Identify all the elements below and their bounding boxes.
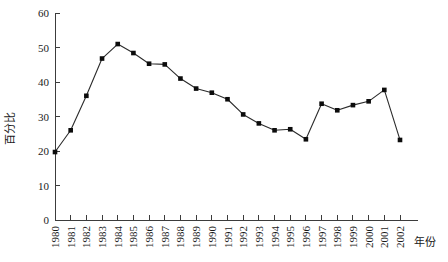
x-tick-label: 1989 [190,226,202,249]
x-axis-title: 年份 [414,235,436,248]
line-chart: 0102030405060 19801981198219831984198519… [0,0,448,262]
data-point [162,62,167,67]
data-point [194,86,199,91]
y-tick-label: 50 [38,42,50,54]
data-point [288,127,293,132]
x-tick-label: 1998 [331,226,343,249]
x-axis: 1980198119821983198419851986198719881989… [49,215,418,248]
x-tick-label: 1980 [49,226,61,249]
x-tick-label: 2000 [363,226,375,249]
data-point [210,90,215,95]
data-point [366,99,371,104]
x-tick-label: 1988 [174,226,186,249]
x-tick-label: 1995 [284,226,296,249]
x-tick-label: 1987 [159,226,171,249]
y-axis-title: 百分比 [4,112,16,145]
x-tick-label: 1996 [300,226,312,249]
y-tick-label: 0 [44,214,50,226]
data-point [178,76,183,81]
x-tick-label: 1983 [96,226,108,249]
x-tick-label: 1982 [80,226,92,248]
x-tick-label: 2002 [394,226,406,248]
data-point [272,128,277,133]
data-point [382,88,387,93]
y-tick-label: 30 [38,111,50,123]
data-point [319,101,324,106]
data-point [241,112,246,117]
x-tick-label: 1992 [237,226,249,248]
x-tick-label: 1981 [65,226,77,248]
y-axis: 0102030405060 [38,7,60,226]
data-point [100,56,105,61]
x-tick-label: 1991 [222,226,234,248]
data-point [257,121,262,126]
x-tick-label: 1999 [347,226,359,249]
x-tick-label: 1997 [316,226,328,249]
x-tick-label: 2001 [378,226,390,248]
chart-canvas: 0102030405060 19801981198219831984198519… [0,0,448,262]
data-point [335,108,340,113]
y-tick-label: 60 [38,7,50,19]
x-tick-label: 1993 [253,226,265,249]
y-tick-label: 40 [38,76,50,88]
data-point [131,51,136,56]
data-point [351,103,356,108]
x-tick-label: 1990 [206,226,218,249]
x-tick-label: 1985 [127,226,139,249]
data-point [225,97,230,102]
x-tick-label: 1994 [269,226,281,249]
data-point [68,128,73,133]
data-point [147,61,152,66]
data-point [398,138,403,143]
y-tick-label: 10 [38,180,50,192]
x-tick-label: 1984 [112,226,124,249]
data-point [84,94,89,99]
data-series [53,42,403,155]
data-point [115,42,120,47]
data-point [304,137,309,142]
x-tick-label: 1986 [143,226,155,249]
data-point [53,150,58,155]
y-tick-label: 20 [38,145,50,157]
